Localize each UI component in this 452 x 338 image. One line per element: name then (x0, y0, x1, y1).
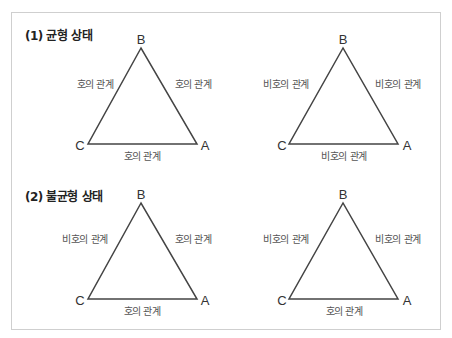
edge-label-bc: 비호의 관계 (263, 79, 309, 90)
edge-label-bc: 비호의 관계 (263, 234, 309, 245)
triangle-shape (289, 203, 398, 299)
edge-label-ba: 비호의 관계 (375, 234, 421, 245)
vertex-b: B (339, 32, 348, 47)
triangle-shape (88, 48, 197, 144)
edge-label-bc: 호의 관계 (77, 79, 114, 90)
triangle-balanced-2: B C A 비호의 관계 비호의 관계 비호의 관계 (263, 32, 421, 162)
vertex-b: B (137, 187, 146, 202)
edge-label-ba: 호의 관계 (175, 79, 212, 90)
vertex-a: A (403, 293, 412, 308)
vertex-a: A (201, 293, 210, 308)
triangle-unbalanced-2: B C A 비호의 관계 비호의 관계 호의 관계 (263, 187, 421, 317)
edge-label-ca: 호의 관계 (326, 306, 363, 317)
vertex-a: A (201, 138, 210, 153)
edge-label-ba: 호의 관계 (175, 234, 212, 245)
vertex-a: A (403, 138, 412, 153)
triangle-balanced-1: B C A 호의 관계 호의 관계 호의 관계 (75, 32, 212, 162)
edge-label-ca: 호의 관계 (124, 151, 161, 162)
triangle-shape (289, 48, 398, 144)
vertex-b: B (137, 32, 146, 47)
edge-label-ca: 비호의 관계 (321, 151, 367, 162)
triangle-unbalanced-1: B C A 비호의 관계 호의 관계 호의 관계 (62, 187, 211, 317)
edge-label-ba: 비호의 관계 (375, 79, 421, 90)
vertex-c: C (277, 293, 286, 308)
vertex-c: C (75, 138, 84, 153)
triangle-diagrams: B C A 호의 관계 호의 관계 호의 관계 B C A 비호의 관계 비호의… (0, 0, 452, 338)
triangle-shape (88, 203, 197, 299)
vertex-b: B (339, 187, 348, 202)
vertex-c: C (277, 138, 286, 153)
vertex-c: C (75, 293, 84, 308)
edge-label-ca: 호의 관계 (124, 306, 161, 317)
edge-label-bc: 비호의 관계 (62, 234, 108, 245)
